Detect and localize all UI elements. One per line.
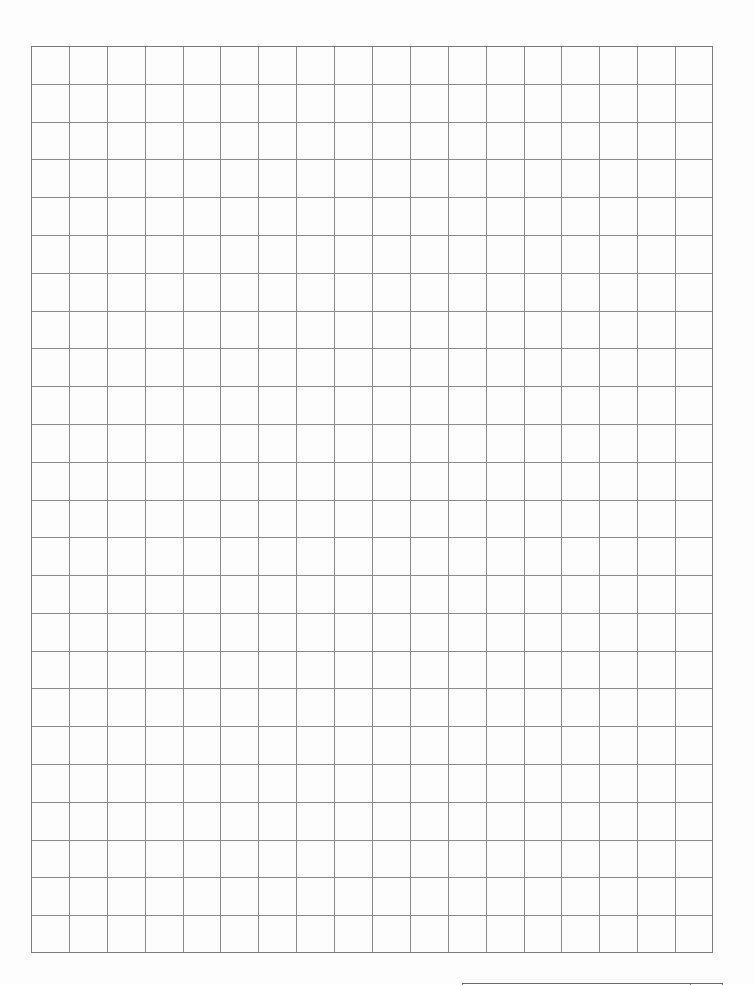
grid-row-line	[32, 537, 712, 538]
grid-row-line	[32, 915, 712, 916]
grid-row-line	[32, 424, 712, 425]
grid-row-line	[32, 726, 712, 727]
grid-row-line	[32, 500, 712, 501]
grid-row-line	[32, 613, 712, 614]
grid-row-line	[32, 197, 712, 198]
grid-area	[31, 46, 713, 953]
grid-row-line	[32, 159, 712, 160]
grid-row-line	[32, 386, 712, 387]
grid-row-line	[32, 348, 712, 349]
grid-row-line	[32, 840, 712, 841]
grid-row-line	[32, 84, 712, 85]
grid-row-line	[32, 802, 712, 803]
grid-row-line	[32, 877, 712, 878]
grid-row-line	[32, 688, 712, 689]
grid-row-line	[32, 462, 712, 463]
grid-row-line	[32, 311, 712, 312]
grid-row-line	[32, 575, 712, 576]
grid-row-line	[32, 651, 712, 652]
grid-row-line	[32, 235, 712, 236]
grid-row-line	[32, 273, 712, 274]
grid-row-line	[32, 764, 712, 765]
grid-row-line	[32, 122, 712, 123]
grid-paper-page	[0, 0, 755, 985]
